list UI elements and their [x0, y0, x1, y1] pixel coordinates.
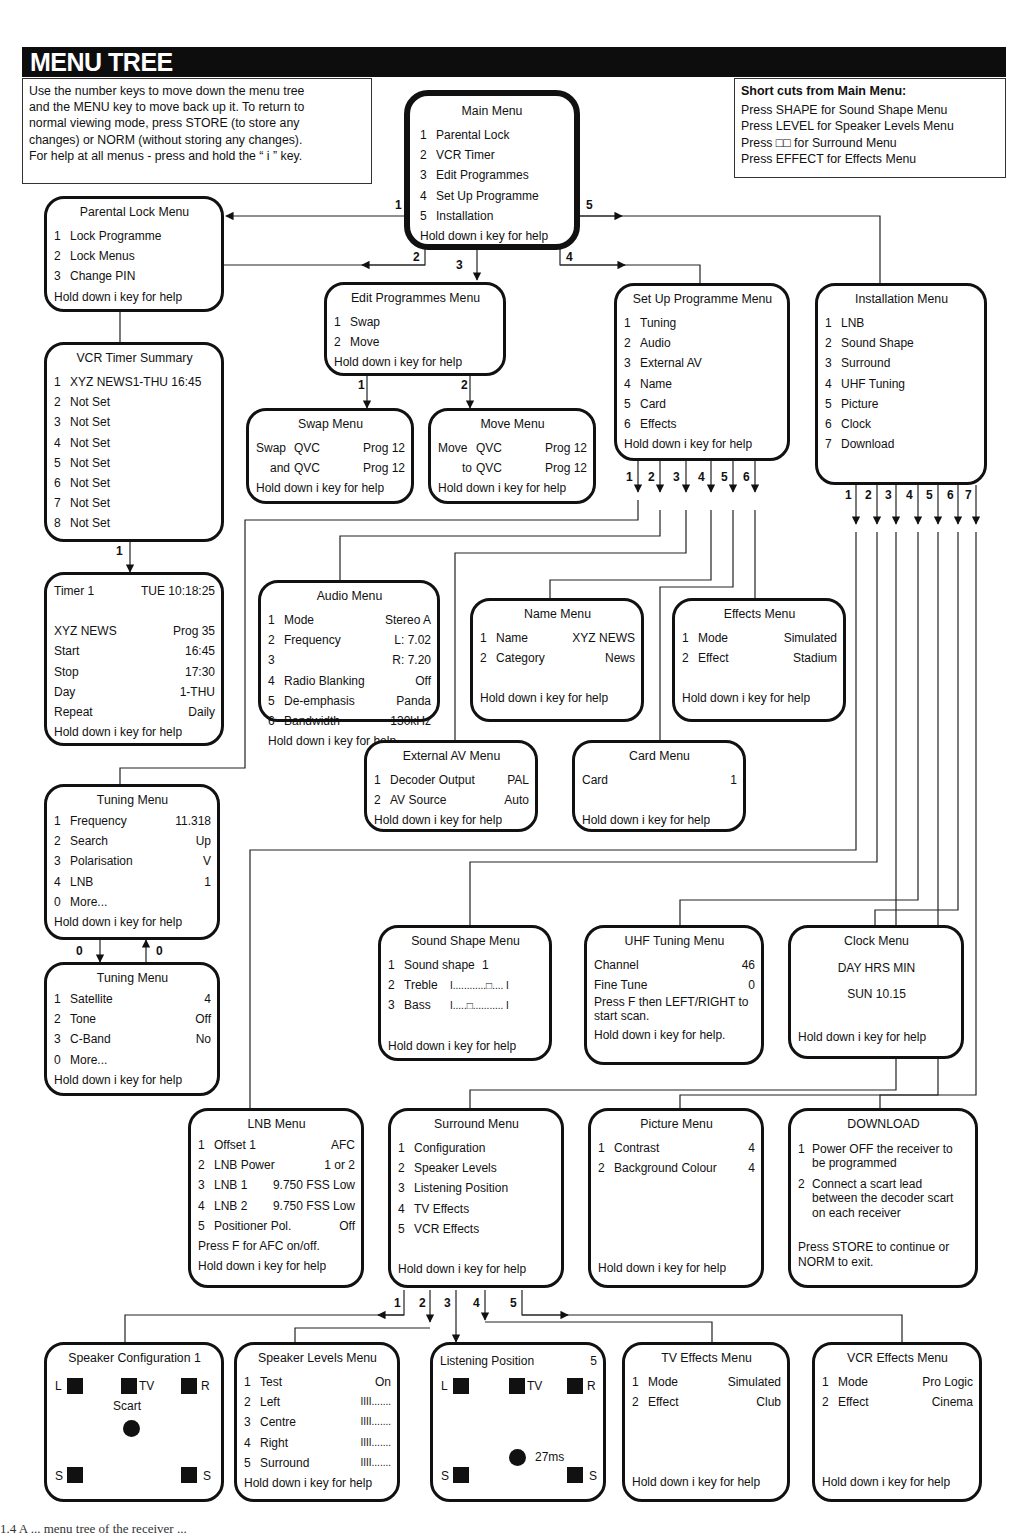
name-setting[interactable]: 1NameXYZ NEWS [480, 628, 635, 648]
vcr-effects-setting[interactable]: 2EffectCinema [822, 1392, 973, 1412]
speaker-label-left: L [55, 1379, 62, 1393]
uhf-instruction: Press F then LEFT/RIGHT tostart scan. [594, 995, 755, 1023]
timer-slot[interactable]: 8Not Set [54, 513, 215, 533]
timer-slot[interactable]: 4Not Set [54, 433, 215, 453]
external-av-setting[interactable]: 2AV SourceAuto [374, 790, 529, 810]
menu-item-uhf-tuning[interactable]: 4UHF Tuning [825, 374, 978, 394]
clock-value[interactable]: SUN 10.15 [798, 981, 955, 1007]
speaker-surround-right-icon[interactable] [181, 1467, 197, 1483]
speaker-tv-icon[interactable] [121, 1378, 137, 1394]
timer-field[interactable]: XYZ NEWSProg 35 [54, 621, 215, 641]
timer-field[interactable]: Stop17:30 [54, 662, 215, 682]
menu-item-audio[interactable]: 2Audio [624, 333, 781, 353]
timer-field[interactable]: Start16:45 [54, 641, 215, 661]
audio-setting[interactable]: 5De-emphasisPanda [268, 691, 431, 711]
menu-item-set-up-programme[interactable]: 4Set Up Programme [420, 186, 564, 206]
speaker-level-setting[interactable]: 1TestOn [244, 1372, 391, 1392]
menu-item-tuning[interactable]: 1Tuning [624, 313, 781, 333]
speaker-level-setting[interactable]: 5SurroundIIII....... [244, 1453, 391, 1473]
swap-row[interactable]: andQVCProg 12 [256, 458, 405, 478]
effects-setting[interactable]: 1ModeSimulated [682, 628, 837, 648]
effects-setting[interactable]: 2EffectStadium [682, 648, 837, 668]
lnb-setting[interactable]: 3LNB 19.750 FSS Low [198, 1175, 355, 1195]
menu-item-parental-lock[interactable]: 1Parental Lock [420, 125, 564, 145]
swap-row[interactable]: SwapQVCProg 12 [256, 438, 405, 458]
menu-item-vcr-timer[interactable]: 2VCR Timer [420, 145, 564, 165]
timer-slot[interactable]: 2Not Set [54, 392, 215, 412]
move-row[interactable]: toQVCProg 12 [438, 458, 587, 478]
menu-item-move[interactable]: 2Move [334, 332, 497, 352]
tv-effects-setting[interactable]: 1ModeSimulated [632, 1372, 781, 1392]
menu-item-effects[interactable]: 6Effects [624, 414, 781, 434]
menu-item-lock-programme[interactable]: 1Lock Programme [54, 226, 215, 246]
treble-slider[interactable]: 2TrebleI............□.... I [388, 975, 543, 995]
card-setting[interactable]: Card1 [582, 770, 737, 790]
menu-item-tv-effects[interactable]: 4TV Effects [398, 1199, 555, 1219]
menu-item-swap[interactable]: 1Swap [334, 312, 497, 332]
menu-item-picture[interactable]: 5Picture [825, 394, 978, 414]
timer-slot[interactable]: 1XYZ NEWS1-THU 16:45 [54, 372, 215, 392]
tuning-setting[interactable]: 4LNB1 [54, 872, 211, 892]
tuning-setting[interactable]: 1Satellite4 [54, 989, 211, 1009]
move-row[interactable]: MoveQVCProg 12 [438, 438, 587, 458]
clock-header: DAY HRS MIN [798, 955, 955, 981]
menu-item-clock[interactable]: 6Clock [825, 414, 978, 434]
uhf-setting[interactable]: Fine Tune0 [594, 975, 755, 995]
menu-item-lock-menus[interactable]: 2Lock Menus [54, 246, 215, 266]
menu-item-surround[interactable]: 3Surround [825, 353, 978, 373]
bass-slider[interactable]: 3BassI.....□........... I [388, 995, 543, 1015]
name-setting[interactable]: 2CategoryNews [480, 648, 635, 668]
speaker-right-icon[interactable] [181, 1378, 197, 1394]
menu-item-vcr-effects[interactable]: 5VCR Effects [398, 1219, 555, 1239]
listener-position-icon[interactable] [509, 1449, 526, 1466]
external-av-setting[interactable]: 1Decoder OutputPAL [374, 770, 529, 790]
menu-item-configuration[interactable]: 1Configuration [398, 1138, 555, 1158]
speaker-level-setting[interactable]: 3CentreIIII....... [244, 1412, 391, 1432]
menu-item-speaker-levels[interactable]: 2Speaker Levels [398, 1158, 555, 1178]
lnb-setting[interactable]: 2LNB Power1 or 2 [198, 1155, 355, 1175]
menu-item-edit-programmes[interactable]: 3Edit Programmes [420, 165, 564, 185]
audio-setting[interactable]: 2FrequencyL: 7.02 [268, 630, 431, 650]
timer-field[interactable]: Day1-THU [54, 682, 215, 702]
menu-item-card[interactable]: 5Card [624, 394, 781, 414]
tv-effects-setting[interactable]: 2EffectClub [632, 1392, 781, 1412]
tuning-setting[interactable]: 1Frequency11.318 [54, 811, 211, 831]
audio-setting[interactable]: 4Radio BlankingOff [268, 671, 431, 691]
audio-setting[interactable]: 3R: 7.20 [268, 650, 431, 670]
picture-setting[interactable]: 2Background Colour4 [598, 1158, 755, 1178]
timer-field[interactable]: RepeatDaily [54, 702, 215, 722]
timer-slot[interactable]: 7Not Set [54, 493, 215, 513]
timer-slot[interactable]: 5Not Set [54, 453, 215, 473]
instructions-line: Use the number keys to move down the men… [29, 83, 365, 99]
speaker-left-icon[interactable] [67, 1378, 83, 1394]
uhf-setting[interactable]: Channel46 [594, 955, 755, 975]
tuning-setting[interactable]: 2ToneOff [54, 1009, 211, 1029]
timer-slot[interactable]: 3Not Set [54, 412, 215, 432]
speaker-surround-left-icon[interactable] [67, 1467, 83, 1483]
menu-item-installation[interactable]: 5Installation [420, 206, 564, 226]
help-hint: Hold down i key for help [398, 1259, 555, 1279]
picture-setting[interactable]: 1Contrast4 [598, 1138, 755, 1158]
sound-shape-setting[interactable]: 1Sound shape1 [388, 955, 543, 975]
tuning-setting[interactable]: 2SearchUp [54, 831, 211, 851]
audio-setting[interactable]: 1ModeStereo A [268, 610, 431, 630]
tuning-setting[interactable]: 3C-BandNo [54, 1029, 211, 1049]
tuning-more[interactable]: 0More... [54, 892, 211, 912]
menu-item-download[interactable]: 7Download [825, 434, 978, 454]
menu-item-external-av[interactable]: 3External AV [624, 353, 781, 373]
lnb-setting[interactable]: 4LNB 29.750 FSS Low [198, 1196, 355, 1216]
menu-item-sound-shape[interactable]: 2Sound Shape [825, 333, 978, 353]
menu-item-listening-position[interactable]: 3Listening Position [398, 1178, 555, 1198]
menu-item-name[interactable]: 4Name [624, 374, 781, 394]
menu-item-lnb[interactable]: 1LNB [825, 313, 978, 333]
vcr-effects-setting[interactable]: 1ModePro Logic [822, 1372, 973, 1392]
tuning-more[interactable]: 0More... [54, 1050, 211, 1070]
audio-setting[interactable]: 6Bandwidth130kHz [268, 711, 431, 731]
speaker-level-setting[interactable]: 2LeftIIII....... [244, 1392, 391, 1412]
speaker-level-setting[interactable]: 4RightIIII....... [244, 1433, 391, 1453]
timer-slot[interactable]: 6Not Set [54, 473, 215, 493]
lnb-setting[interactable]: 5Positioner Pol.Off [198, 1216, 355, 1236]
menu-item-change-pin[interactable]: 3Change PIN [54, 266, 215, 286]
tuning-setting[interactable]: 3PolarisationV [54, 851, 211, 871]
lnb-setting[interactable]: 1Offset 1AFC [198, 1135, 355, 1155]
